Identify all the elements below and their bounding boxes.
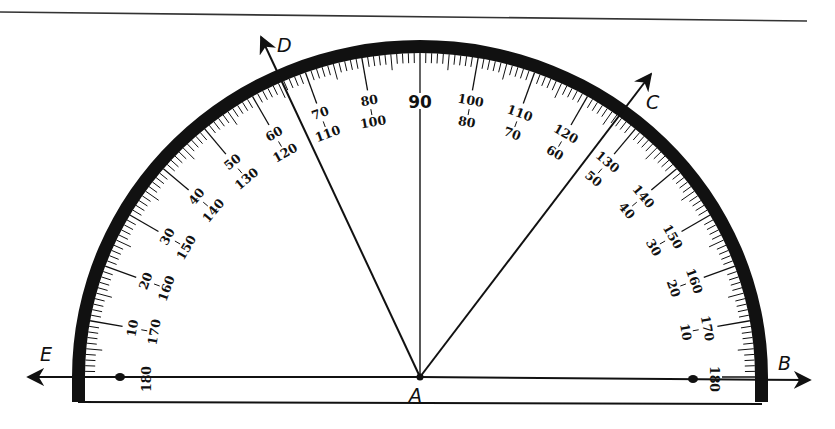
scale-tick [316,69,319,79]
scale-tick [689,196,697,202]
scale-tick [247,99,252,108]
scale-tick [682,215,711,232]
outer-scale-label: 70 [309,103,331,123]
scale-tick [592,102,597,110]
scale-tick [571,96,588,125]
scale-tick [704,220,713,225]
scale-tick [196,136,203,143]
scale-tick [91,315,101,317]
protractor-diagram: 1017020160301504014050130601207011080100… [0,0,835,429]
scale-tick [719,250,728,254]
scale-tick [122,230,131,235]
scale-tick [520,69,523,79]
scale-tick [268,88,273,97]
scale-tick [88,332,98,333]
scale-tick [523,73,534,104]
label-e: E [40,343,52,365]
scale-tick [515,67,518,77]
scale-tick [633,132,640,140]
label-a: A [407,384,422,406]
scale-tick [385,55,386,65]
outer-scale-label: 50 [221,150,244,173]
scale-tick [214,122,220,130]
scale-tick [460,55,461,65]
ray-ad [261,37,420,377]
scale-tick [101,277,111,280]
scale-tick [142,196,150,202]
scale-tick [305,73,316,104]
scale-tick [555,83,562,98]
scale-tick [526,71,529,80]
outer-scale-label: 150 [660,221,686,251]
inner-scale-label: 160 [155,273,178,303]
scale-tick [85,360,95,361]
baseline-dot [688,375,698,383]
outer-scale-label: 170 [698,314,717,343]
scale-tick [732,288,742,291]
scale-tick [124,225,133,230]
scale-tick [311,71,314,80]
inner-scale-label: 20 [664,278,684,300]
inner-scale-label: 60 [544,142,567,164]
point-labels: D C E B A [40,34,791,406]
scale-tick [253,96,270,125]
scale-tick [116,240,131,247]
inner-scale-label: 170 [144,318,163,347]
scale-tick [209,125,215,133]
scale-tick [471,57,473,67]
scale-tick [368,57,370,67]
scale-tick [602,108,608,116]
vertex-a [417,374,424,381]
scale-tick [547,79,551,88]
scale-tick [139,201,147,206]
scale-tick [710,230,719,235]
scale-tick [454,55,455,65]
inner-scale-label: 120 [270,140,300,166]
scale-tick [443,54,444,64]
scale-tick [620,122,626,130]
end-scale-label: 180 [139,366,154,392]
outer-scale-label: 120 [551,121,581,147]
scale-tick [587,99,592,108]
scale-tick [167,164,175,171]
inner-scale-label: 50 [582,167,605,190]
scale-tick [200,132,207,140]
scale-tick [391,54,392,70]
scale-tick [465,56,466,66]
scale-tick [160,173,168,179]
scale-tick [745,360,755,361]
scale-tick [242,102,247,110]
label-d: D [277,34,292,56]
scale-tick [742,332,752,333]
top-rule [0,12,807,21]
inner-scale-label: 10 [677,322,695,342]
scale-tick [273,86,277,95]
scale-tick [89,326,99,328]
scale-tick [642,140,649,147]
scale-tick [735,299,745,301]
label-b: B [778,352,791,374]
label-connector [598,169,602,174]
scale-tick [397,54,398,64]
label-connector [238,169,242,174]
scale-tick [345,61,347,71]
scale-tick [100,282,110,285]
scale-tick [472,58,478,90]
scale-tick [562,86,566,95]
scale-tick [103,272,112,275]
scale-tick [597,105,602,113]
outer-scale-label: 20 [136,270,156,292]
scale-tick [107,261,116,265]
scale-tick [676,178,684,184]
scale-tick [218,118,224,126]
scale-tick [721,256,730,260]
scale-tick [717,321,749,327]
ray-ac [420,74,651,377]
scale-tick [573,91,578,100]
scale-tick [673,173,681,179]
scale-tick [437,53,438,63]
scale-tick [707,225,716,230]
scale-tick [133,210,142,215]
scale-tick [152,182,160,188]
outer-scale-label: 80 [359,91,379,109]
